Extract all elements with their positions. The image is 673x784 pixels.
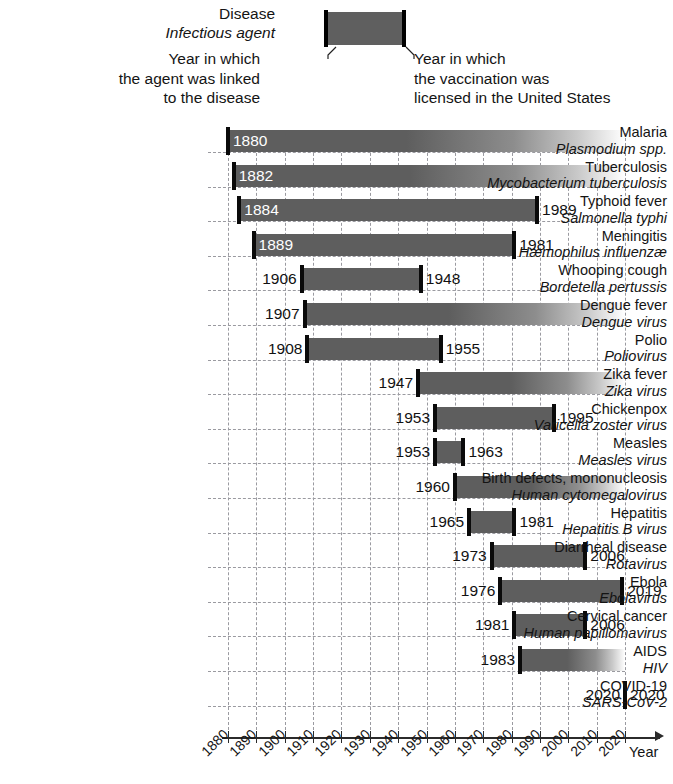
row-disease-name: Dengue fever xyxy=(445,297,667,314)
row-label: MalariaPlasmodium spp. xyxy=(445,124,673,157)
row-disease-name: Measles xyxy=(445,435,667,452)
row-label: PolioPoliovirus xyxy=(445,332,673,365)
row-agent-name: Mycobacterium tuberculosis xyxy=(445,175,667,192)
gridline-1900 xyxy=(285,133,286,730)
timeline-chart: Year 1880MalariaPlasmodium spp.1882Tuber… xyxy=(0,0,673,784)
row-agent-name: Varicella zoster virus xyxy=(445,417,667,434)
x-axis-title: Year xyxy=(629,744,658,760)
bar-start-year-label: 1908 xyxy=(0,340,302,357)
row-disease-name: Chickenpox xyxy=(445,401,667,418)
x-axis-tick-label-2020: 2020 xyxy=(595,726,628,759)
row-label: MeaslesMeasles virus xyxy=(445,435,673,468)
row-label: TuberculosisMycobacterium tuberculosis xyxy=(445,159,673,192)
bar-start-cap xyxy=(252,231,256,259)
bar-start-cap xyxy=(226,127,230,155)
row-agent-name: Hepatitis B virus xyxy=(445,521,667,538)
bar-start-cap xyxy=(305,335,309,363)
row-agent-name: SARS-CoV-2 xyxy=(445,694,667,711)
bar-start-year-label: 1953 xyxy=(0,409,430,426)
row-label: Dengue feverDengue virus xyxy=(445,297,673,330)
row-label: Birth defects, mononucleosisHuman cytome… xyxy=(445,470,673,503)
x-axis-tick-label-1910: 1910 xyxy=(283,726,316,759)
row-label: AIDSHIV xyxy=(445,643,673,676)
row-agent-name: Poliovirus xyxy=(445,348,667,365)
row-disease-name: COVID-19 xyxy=(445,678,667,695)
bar-start-year-label: 1889 xyxy=(259,236,293,253)
row-agent-name: Bordetella pertussis xyxy=(445,279,667,296)
figure-root: Disease Infectious agent Year in which t… xyxy=(0,0,673,784)
row-label: ChickenpoxVaricella zoster virus xyxy=(445,401,673,434)
bar-start-year-label: 1884 xyxy=(244,201,278,218)
gridline-1880 xyxy=(228,133,229,730)
row-disease-name: Diarrheal disease xyxy=(445,539,667,556)
x-axis-tick-label-1930: 1930 xyxy=(340,726,373,759)
timeline-bar xyxy=(307,338,440,360)
x-axis-tick-label-1990: 1990 xyxy=(510,726,543,759)
row-disease-name: Zika fever xyxy=(445,366,667,383)
bar-start-year-label: 1947 xyxy=(0,374,413,391)
row-label: COVID-19SARS-CoV-2 xyxy=(445,678,673,711)
row-label: HepatitisHepatitis B virus xyxy=(445,505,673,538)
x-axis-tick-label-2000: 2000 xyxy=(538,726,571,759)
bar-start-year-label: 1906 xyxy=(0,270,297,287)
row-disease-name: Birth defects, mononucleosis xyxy=(445,470,667,487)
bar-start-year-label: 1983 xyxy=(0,651,515,668)
bar-end-cap xyxy=(419,265,423,293)
x-axis-tick-label-1890: 1890 xyxy=(226,726,259,759)
row-agent-name: Human papillomavirus xyxy=(445,625,667,642)
row-agent-name: Zika virus xyxy=(445,383,667,400)
row-label: Whooping coughBordetella pertussis xyxy=(445,262,673,295)
row-agent-name: Human cytomegalovirus xyxy=(445,487,667,504)
bar-start-year-label: 1981 xyxy=(0,616,509,633)
row-agent-name: Salmonella typhi xyxy=(445,210,667,227)
x-axis-arrow-icon xyxy=(655,731,664,741)
bar-start-year-label: 1880 xyxy=(233,132,267,149)
row-label: MeningitisHæmophilus influenzæ xyxy=(445,228,673,261)
bar-start-cap xyxy=(232,162,236,190)
x-axis-tick-label-1950: 1950 xyxy=(397,726,430,759)
x-axis-tick-label-1940: 1940 xyxy=(368,726,401,759)
row-disease-name: AIDS xyxy=(445,643,667,660)
bar-start-cap xyxy=(303,300,307,328)
row-disease-name: Meningitis xyxy=(445,228,667,245)
x-axis-tick-label-1880: 1880 xyxy=(198,726,231,759)
bar-end-cap xyxy=(439,335,443,363)
row-label: Diarrheal diseaseRotavirus xyxy=(445,539,673,572)
bar-start-year-label: 1965 xyxy=(0,513,464,530)
gridline-1930 xyxy=(370,133,371,730)
bar-start-cap xyxy=(237,196,241,224)
bar-start-year-label: 1907 xyxy=(0,305,300,322)
bar-start-year-label: 1882 xyxy=(239,167,273,184)
row-disease-name: Whooping cough xyxy=(445,262,667,279)
row-disease-name: Cervical cancer xyxy=(445,608,667,625)
row-agent-name: Plasmodium spp. xyxy=(445,141,667,158)
row-label: EbolaEbolavirus xyxy=(445,574,673,607)
row-label: Cervical cancerHuman papillomavirus xyxy=(445,608,673,641)
bar-start-cap xyxy=(416,369,420,397)
x-axis-tick-label-1970: 1970 xyxy=(453,726,486,759)
bar-start-cap xyxy=(300,265,304,293)
gridline-1890 xyxy=(256,133,257,730)
row-disease-name: Malaria xyxy=(445,124,667,141)
row-disease-name: Polio xyxy=(445,332,667,349)
timeline-bar xyxy=(302,268,421,290)
gridline-1910 xyxy=(313,133,314,730)
x-axis-tick-label-1980: 1980 xyxy=(482,726,515,759)
row-disease-name: Hepatitis xyxy=(445,505,667,522)
row-agent-name: Measles virus xyxy=(445,452,667,469)
row-label: Typhoid feverSalmonella typhi xyxy=(445,193,673,226)
row-agent-name: Ebolavirus xyxy=(445,590,667,607)
bar-start-cap xyxy=(433,438,437,466)
x-axis-tick-label-1960: 1960 xyxy=(425,726,458,759)
gridline-1950 xyxy=(427,133,428,730)
bar-start-year-label: 1976 xyxy=(0,582,495,599)
bar-start-year-label: 1953 xyxy=(0,443,430,460)
row-agent-name: Dengue virus xyxy=(445,314,667,331)
bar-start-cap xyxy=(433,404,437,432)
x-axis-tick-label-1900: 1900 xyxy=(255,726,288,759)
row-disease-name: Typhoid fever xyxy=(445,193,667,210)
gridline-1920 xyxy=(341,133,342,730)
bar-start-year-label: 1973 xyxy=(0,547,487,564)
gridline-1940 xyxy=(398,133,399,730)
row-agent-name: Hæmophilus influenzæ xyxy=(445,244,667,261)
